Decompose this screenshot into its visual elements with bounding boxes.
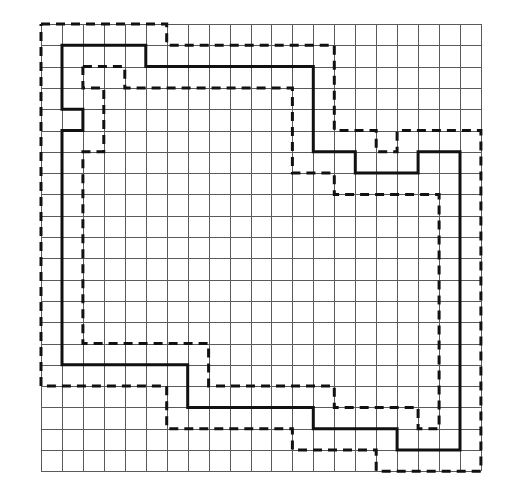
- outer-dashed-boundary: [41, 24, 481, 471]
- inner-dashed-boundary: [83, 67, 439, 429]
- grid-lines: [41, 24, 482, 472]
- solid-boundary: [62, 45, 460, 450]
- grid-diagram: [0, 0, 509, 499]
- boundary-paths: [41, 24, 481, 471]
